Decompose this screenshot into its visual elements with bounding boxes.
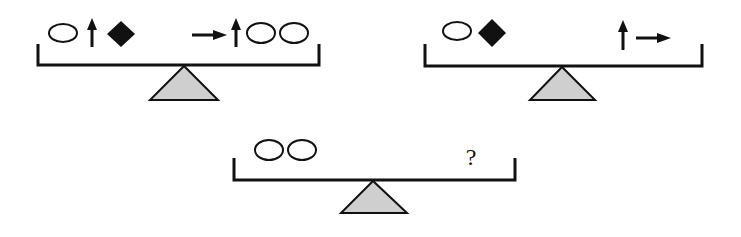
scale-2-beam xyxy=(425,44,702,66)
balance-puzzle-diagram: ? xyxy=(0,0,741,237)
scale-1-beam xyxy=(38,44,319,65)
oval-icon xyxy=(247,23,275,43)
scale-3: ? xyxy=(234,140,515,213)
scale-2-fulcrum xyxy=(530,67,595,100)
oval-icon xyxy=(280,23,308,43)
scale-1 xyxy=(38,18,319,100)
scale-3-right-pan: ? xyxy=(466,144,477,170)
right-arrow-icon xyxy=(192,30,227,40)
up-arrow-icon xyxy=(87,18,97,47)
scale-3-fulcrum xyxy=(341,181,407,213)
up-arrow-icon xyxy=(231,18,241,47)
oval-icon xyxy=(443,22,471,40)
diamond-icon xyxy=(107,21,135,47)
scale-2-right-pan xyxy=(618,20,671,50)
scale-2-left-pan xyxy=(443,19,506,47)
oval-icon xyxy=(255,140,283,160)
oval-icon xyxy=(288,140,316,160)
question-mark: ? xyxy=(466,144,477,170)
scale-2 xyxy=(425,19,702,100)
up-arrow-icon xyxy=(618,20,628,50)
scale-3-left-pan xyxy=(255,140,316,160)
right-arrow-icon xyxy=(636,33,671,43)
scale-1-right-pan xyxy=(192,18,308,47)
scale-1-fulcrum xyxy=(150,66,218,100)
diamond-icon xyxy=(478,19,506,47)
oval-icon xyxy=(49,24,77,42)
scale-1-left-pan xyxy=(49,18,135,47)
